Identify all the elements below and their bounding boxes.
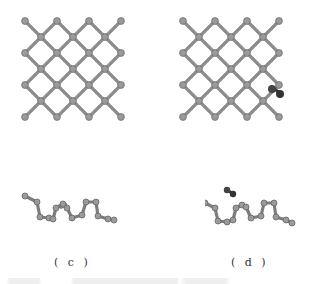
cropped-caption [0,278,321,284]
lattice-side-view-pristine [20,190,120,230]
panel-label-c: ( c ) [54,256,91,269]
side-view-diagram [205,184,305,234]
adsorbate-dimer [224,187,236,197]
lattice-top-view-pristine [18,14,128,124]
side-view-diagram [20,190,120,230]
panel-label-d: ( d ) [231,256,269,269]
lattice-side-view-adsorbed [205,184,305,234]
lattice-diagram [18,14,128,124]
lattice-diagram [176,14,286,124]
lattice-top-view-adsorbed [176,14,286,124]
